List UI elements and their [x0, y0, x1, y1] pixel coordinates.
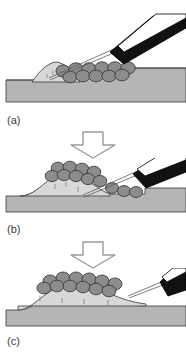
down-arrow-icon — [65, 130, 121, 160]
panel-label-a: (a) — [7, 115, 20, 126]
tool-body-a — [110, 14, 186, 64]
panel-b — [0, 158, 186, 218]
down-arrow-icon — [65, 240, 121, 270]
tool-body-b — [133, 158, 186, 188]
panel-a — [0, 8, 186, 108]
process-diagram-figure: (a) — [0, 0, 186, 356]
tool-body-c — [160, 268, 186, 296]
panel-a-illustration — [0, 8, 186, 108]
panel-c — [0, 268, 186, 330]
panel-label-b: (b) — [7, 224, 20, 235]
panel-c-illustration — [0, 268, 186, 330]
panel-b-illustration — [0, 158, 186, 218]
panel-label-c: (c) — [7, 336, 20, 347]
